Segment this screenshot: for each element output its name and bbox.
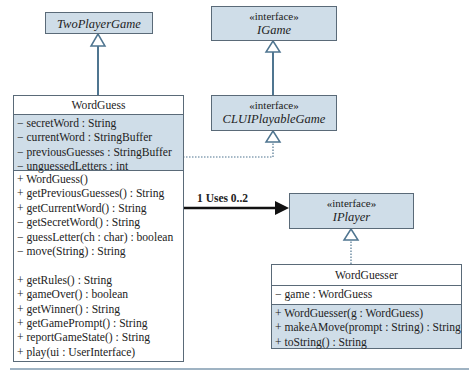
class-word-guesser: WordGuesser − game : WordGuess + WordGue… <box>271 264 462 349</box>
method: + getPreviousGuesses() : String <box>17 187 180 201</box>
method: + WordGuesser(g : WordGuess) <box>275 307 458 321</box>
method: + toString() : String <box>275 336 458 350</box>
class-two-player-game: TwoPlayerGame <box>45 12 153 34</box>
method: − getSecretWord() : String <box>17 216 180 230</box>
class-name: WordGuesser <box>272 265 461 285</box>
attributes-compartment: − secretWord : String − currentWord : St… <box>14 114 183 170</box>
method-spacer <box>17 259 180 273</box>
hollow-triangle-arrow-icon <box>344 229 358 240</box>
attributes-compartment: − game : WordGuess <box>272 285 461 304</box>
stereotype-label: «interface» <box>290 197 413 210</box>
method: + WordGuess() <box>17 173 180 187</box>
methods-compartment: + WordGuess() + getPreviousGuesses() : S… <box>14 170 183 361</box>
interface-clui-playable-game: «interface» CLUIPlayableGame <box>211 95 337 131</box>
stereotype-label: «interface» <box>212 99 336 112</box>
class-word-guess: WordGuess − secretWord : String − curren… <box>13 95 184 362</box>
realization-line <box>183 142 273 157</box>
method: + reportGameState() : String <box>17 331 180 345</box>
class-name: WordGuess <box>14 96 183 114</box>
hollow-triangle-arrow-icon <box>91 34 105 46</box>
interface-name: IPlayer <box>290 210 413 224</box>
hollow-triangle-arrow-icon <box>266 131 280 142</box>
method: + makeAMove(prompt : String) : String <box>275 321 458 335</box>
interface-igame: «interface» IGame <box>211 6 337 41</box>
attribute: − previousGuesses : StringBuffer <box>17 146 180 160</box>
method: + gameOver() : boolean <box>17 288 180 302</box>
method: + getGamePrompt() : String <box>17 317 180 331</box>
attribute: − secretWord : String <box>17 117 180 131</box>
attribute: − currentWord : StringBuffer <box>17 131 180 145</box>
method: + getRules() : String <box>17 274 180 288</box>
uses-association-label: 1 Uses 0..2 <box>197 192 248 204</box>
interface-name: IGame <box>212 23 336 37</box>
interface-iplayer: «interface» IPlayer <box>289 193 414 229</box>
class-name: TwoPlayerGame <box>57 17 141 31</box>
methods-compartment: + WordGuesser(g : WordGuess) + makeAMove… <box>272 304 461 348</box>
method: + getWinner() : String <box>17 303 180 317</box>
stereotype-label: «interface» <box>212 10 336 23</box>
method: − guessLetter(ch : char) : boolean <box>17 231 180 245</box>
method: + getCurrentWord() : String <box>17 202 180 216</box>
interface-name: CLUIPlayableGame <box>212 112 336 126</box>
attribute: − game : WordGuess <box>275 288 458 302</box>
hollow-triangle-arrow-icon <box>266 41 280 52</box>
filled-arrowhead-icon <box>275 201 289 215</box>
method: − move(String) : String <box>17 245 180 259</box>
method: + play(ui : UserInterface) <box>17 346 180 360</box>
